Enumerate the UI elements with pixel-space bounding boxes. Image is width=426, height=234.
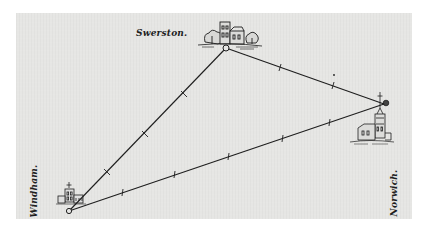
tick-mark [174,171,175,178]
triangulation-diagram [0,0,426,234]
windham-church-icon [56,182,86,204]
station-node-windham [66,208,71,213]
line-swerston-norwich [226,48,384,104]
place-label-norwich: Norwich. [389,170,399,217]
tick-mark [228,153,229,160]
tick-mark [329,119,330,126]
line-windham-norwich [69,104,384,211]
survey-mark [333,74,335,76]
tick-mark [282,135,283,142]
place-label-swerston: Swerston. [136,28,187,38]
line-windham-swerston [69,48,226,211]
tick-mark [122,189,123,196]
station-node-swerston [223,45,229,51]
place-label-windham: Windham. [29,165,39,218]
swerston-manor-icon [198,22,262,49]
